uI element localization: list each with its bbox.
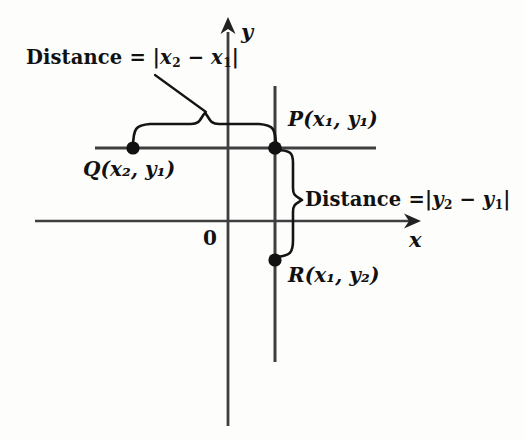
horizontal-distance-word: Distance bbox=[26, 46, 122, 69]
point-label-P-coords: (x₁, y₁) bbox=[303, 107, 378, 131]
horizontal-distance-term-b-subscript: 1 bbox=[223, 56, 232, 70]
vertical-distance-equals: = bbox=[409, 188, 425, 211]
coordinate-distance-diagram: y x 0 Distance = |x2 − x1| Distance =|y2… bbox=[0, 0, 524, 440]
horizontal-distance-term-b: x bbox=[211, 46, 223, 69]
x-axis-label: x bbox=[409, 229, 422, 250]
vertical-distance-term-b: y bbox=[483, 188, 494, 211]
vertical-distance-term-a-subscript: 2 bbox=[444, 198, 453, 212]
horizontal-distance-term-a: x bbox=[160, 46, 172, 69]
horizontal-distance-brace bbox=[133, 75, 276, 148]
y-axis-arrowhead bbox=[221, 17, 236, 34]
point-label-Q-name: Q bbox=[83, 157, 101, 181]
vertical-distance-term-a: y bbox=[432, 188, 443, 211]
point-label-R-coords: (x₁, y₂) bbox=[305, 263, 380, 287]
point-label-P-name: P bbox=[288, 107, 303, 131]
vertical-distance-word: Distance bbox=[305, 188, 401, 211]
horizontal-distance-annotation: Distance = |x2 − x1| bbox=[26, 48, 239, 69]
point-marker-Q bbox=[126, 141, 139, 154]
vertical-distance-abs-close: | bbox=[503, 188, 510, 211]
horizontal-distance-abs-close: | bbox=[232, 46, 239, 69]
point-marker-R bbox=[268, 253, 281, 266]
horizontal-distance-minus: − bbox=[188, 46, 204, 69]
vertical-distance-minus: − bbox=[460, 188, 476, 211]
point-marker-P bbox=[268, 141, 282, 155]
horizontal-distance-abs-open: | bbox=[153, 46, 160, 69]
axes-group bbox=[35, 17, 421, 426]
horizontal-distance-equals: = bbox=[130, 46, 146, 69]
horizontal-brace-leader-line bbox=[155, 75, 206, 112]
point-label-R-name: R bbox=[288, 263, 305, 287]
point-label-Q-coords: (x₂, y₁) bbox=[101, 157, 176, 181]
vertical-distance-term-b-subscript: 1 bbox=[494, 198, 503, 212]
horizontal-distance-term-a-subscript: 2 bbox=[172, 56, 181, 70]
vertical-distance-brace bbox=[275, 150, 302, 257]
y-axis-label: y bbox=[241, 21, 253, 42]
point-label-Q: Q(x₂, y₁) bbox=[83, 159, 175, 179]
origin-label: 0 bbox=[203, 228, 217, 248]
point-label-R: R(x₁, y₂) bbox=[288, 265, 379, 285]
point-label-P: P(x₁, y₁) bbox=[288, 109, 378, 129]
vertical-distance-annotation: Distance =|y2 − y1| bbox=[305, 190, 511, 211]
